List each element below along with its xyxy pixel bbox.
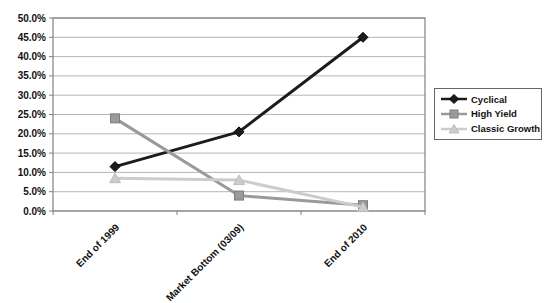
data-point-square [235,191,244,200]
legend-label-high-yield: High Yield [471,108,517,119]
y-tick-label: 25.0% [18,109,46,120]
y-tick-label: 0.0% [23,206,46,217]
line-chart-figure: 0.0%5.0%10.0%15.0%20.0%25.0%30.0%35.0%40… [0,0,556,303]
x-tick-label: Market Bottom (03/09) [164,222,246,303]
plot-area: 0.0%5.0%10.0%15.0%20.0%25.0%30.0%35.0%40… [0,0,556,303]
x-tick-label: End of 2010 [322,221,370,269]
y-tick-label: 45.0% [18,32,46,43]
y-tick-label: 10.0% [18,167,46,178]
y-tick-label: 20.0% [18,128,46,139]
legend-label-classic-growth: Classic Growth [471,123,540,134]
y-tick-label: 35.0% [18,70,46,81]
high-yield-series-key-icon [440,109,468,119]
legend-label-cyclical: Cyclical [471,94,507,105]
y-tick-label: 50.0% [18,13,46,24]
legend: Cyclical High Yield Classic Growth [434,88,542,140]
legend-item-classic-growth: Classic Growth [440,123,539,134]
y-tick-label: 5.0% [23,186,46,197]
y-tick-label: 15.0% [18,148,46,159]
data-point-diamond [110,162,120,172]
classic-growth-series-key-icon [440,124,468,134]
x-tick-label: End of 1999 [74,221,122,269]
legend-item-cyclical: Cyclical [440,94,539,105]
data-point-square [111,114,120,123]
y-tick-label: 30.0% [18,90,46,101]
y-tick-label: 40.0% [18,51,46,62]
cyclical-series-key-icon [440,94,468,104]
legend-item-high-yield: High Yield [440,108,539,119]
